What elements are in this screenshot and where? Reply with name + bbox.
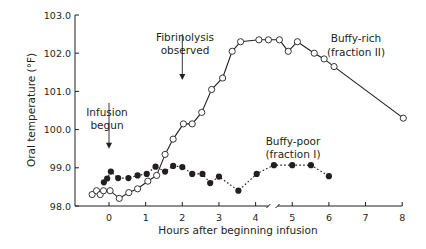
open-circle-marker bbox=[294, 39, 300, 45]
open-circle-marker bbox=[199, 109, 205, 115]
x-tick-label: 5 bbox=[289, 212, 295, 223]
y-tick-label: 102.0 bbox=[44, 48, 71, 59]
filled-circle-marker bbox=[170, 163, 176, 169]
x-tick-label: 2 bbox=[179, 212, 185, 223]
open-circle-marker bbox=[265, 37, 271, 43]
arrowhead-icon bbox=[106, 143, 112, 149]
filled-circle-marker bbox=[235, 188, 241, 194]
x-tick-label: 7 bbox=[363, 212, 369, 223]
open-circle-marker bbox=[189, 121, 195, 127]
temperature-line-chart: 98.099.0100.0101.0102.0103.0012345678 In… bbox=[0, 0, 426, 249]
filled-circle-marker bbox=[289, 162, 295, 168]
y-tick-label: 100.0 bbox=[44, 124, 71, 135]
annotation-text: Buffy-poor bbox=[266, 135, 321, 147]
y-tick-label: 98.0 bbox=[50, 201, 71, 212]
open-circle-marker bbox=[126, 190, 132, 196]
open-circle-marker bbox=[256, 37, 262, 43]
x-tick-label: 3 bbox=[216, 212, 222, 223]
filled-circle-marker bbox=[104, 175, 110, 181]
open-circle-marker bbox=[229, 48, 235, 54]
filled-circle-marker bbox=[162, 169, 168, 175]
x-tick-label: 6 bbox=[326, 212, 332, 223]
open-circle-marker bbox=[237, 39, 243, 45]
open-circle-marker bbox=[220, 75, 226, 81]
y-tick-label: 101.0 bbox=[44, 86, 71, 97]
open-circle-marker bbox=[154, 172, 160, 178]
filled-circle-marker bbox=[326, 173, 332, 179]
annotation-text: Buffy-rich bbox=[331, 32, 382, 44]
open-circle-marker bbox=[162, 151, 168, 157]
open-circle-marker bbox=[331, 63, 337, 69]
open-circle-marker bbox=[180, 121, 186, 127]
filled-circle-marker bbox=[254, 171, 260, 177]
filled-circle-marker bbox=[134, 172, 140, 178]
open-circle-marker bbox=[276, 37, 282, 43]
annotation-infusion-begun: Infusionbegun bbox=[86, 103, 128, 149]
filled-circle-marker bbox=[152, 164, 158, 170]
open-circle-marker bbox=[134, 186, 140, 192]
open-circle-marker bbox=[145, 178, 151, 184]
open-circle-marker bbox=[209, 86, 215, 92]
x-tick-label: 0 bbox=[106, 212, 112, 223]
y-tick-label: 103.0 bbox=[44, 10, 71, 21]
filled-circle-marker bbox=[216, 173, 222, 179]
x-tick-label: 8 bbox=[399, 212, 405, 223]
x-tick-label: 4 bbox=[253, 212, 259, 223]
y-tick-label: 99.0 bbox=[50, 162, 71, 173]
filled-circle-marker bbox=[207, 180, 213, 186]
filled-circle-marker bbox=[199, 171, 205, 177]
annotation-text: observed bbox=[161, 44, 210, 56]
x-tick-label: 1 bbox=[143, 212, 149, 223]
open-circle-marker bbox=[170, 136, 176, 142]
annotation-text: begun bbox=[90, 119, 123, 131]
annotation-buffy-rich: Buffy-rich(fraction II) bbox=[327, 32, 385, 58]
filled-circle-marker bbox=[189, 171, 195, 177]
open-circle-marker bbox=[100, 188, 106, 194]
open-circle-marker bbox=[311, 50, 317, 56]
filled-circle-marker bbox=[144, 171, 150, 177]
filled-circle-marker bbox=[179, 164, 185, 170]
arrowhead-icon bbox=[179, 74, 185, 80]
filled-circle-marker bbox=[271, 162, 277, 168]
annotation-text: Fibrinolysis bbox=[156, 31, 214, 43]
annotation-buffy-poor: Buffy-poor(fraction I) bbox=[266, 135, 322, 160]
open-circle-marker bbox=[285, 48, 291, 54]
filled-circle-marker bbox=[308, 162, 314, 168]
chart-canvas: 98.099.0100.0101.0102.0103.0012345678 In… bbox=[0, 0, 426, 249]
series-layer bbox=[89, 37, 406, 202]
y-axis-label: Oral temperature (°F) bbox=[25, 53, 37, 167]
annotation-text: (fraction II) bbox=[327, 46, 385, 58]
annotation-text: (fraction I) bbox=[266, 148, 321, 160]
annotations: InfusionbegunFibrinolysisobservedBuffy-r… bbox=[86, 31, 385, 160]
filled-circle-marker bbox=[108, 169, 114, 175]
filled-circle-marker bbox=[125, 175, 131, 181]
open-circle-marker bbox=[116, 195, 122, 201]
x-axis-label: Hours after beginning infusion bbox=[158, 224, 317, 236]
filled-circle-marker bbox=[115, 175, 121, 181]
annotation-fibrinolysis-observed: Fibrinolysisobserved bbox=[156, 31, 214, 80]
open-circle-marker bbox=[400, 115, 406, 121]
annotation-text: Infusion bbox=[86, 106, 128, 118]
open-circle-marker bbox=[107, 188, 113, 194]
